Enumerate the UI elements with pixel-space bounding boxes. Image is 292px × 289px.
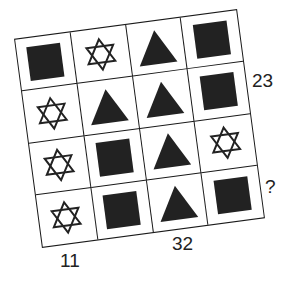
triangle-icon: [135, 27, 177, 66]
square-icon: [200, 72, 238, 110]
square-icon: [193, 20, 231, 58]
square-icon: [103, 191, 141, 229]
star-of-david-icon: [39, 145, 79, 185]
grid-cell: [202, 166, 264, 225]
square-icon: [96, 139, 134, 177]
grid-cell: [195, 114, 257, 173]
grid-cell: [70, 25, 132, 84]
grid-cell: [29, 136, 91, 195]
puzzle-grid: [14, 9, 265, 248]
row-2-sum-label: 23: [252, 70, 273, 92]
row-4-unknown-label: ?: [265, 176, 276, 198]
star-of-david-icon: [46, 197, 86, 237]
grid-cell: [181, 10, 243, 69]
column-1-sum-label: 11: [60, 250, 80, 272]
column-3-sum-label: 32: [172, 233, 193, 255]
grid-cell: [84, 129, 146, 188]
triangle-icon: [87, 86, 129, 125]
grid-cell: [133, 69, 195, 128]
grid-cell: [22, 84, 84, 143]
triangle-icon: [156, 183, 198, 222]
star-of-david-icon: [81, 34, 121, 74]
star-of-david-icon: [206, 123, 246, 163]
grid-cell: [15, 32, 77, 91]
grid-cell: [140, 121, 202, 180]
square-icon: [27, 42, 65, 80]
star-of-david-icon: [32, 93, 72, 133]
grid-cell: [188, 62, 250, 121]
triangle-icon: [149, 131, 191, 170]
grid-cell: [36, 188, 98, 247]
triangle-icon: [142, 79, 184, 118]
grid-cell: [77, 77, 139, 136]
grid-cell: [91, 180, 153, 239]
grid-cell: [126, 18, 188, 77]
grid-cell: [146, 173, 208, 232]
square-icon: [214, 176, 252, 214]
